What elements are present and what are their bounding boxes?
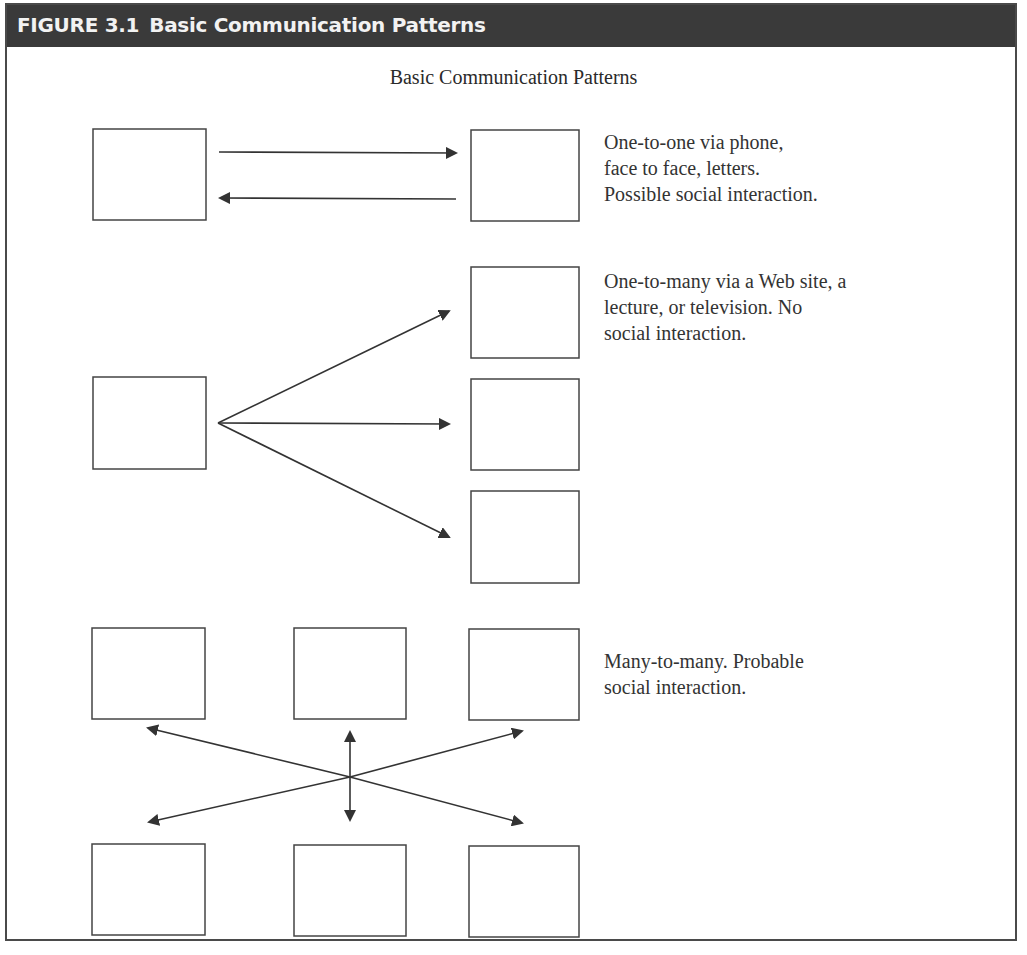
arrow-down-right bbox=[350, 777, 522, 823]
description-line: Possible social interaction. bbox=[604, 181, 984, 207]
arrow-right bbox=[219, 152, 456, 153]
description-line: social interaction. bbox=[604, 674, 984, 700]
node-box bbox=[471, 267, 579, 358]
node-box bbox=[294, 845, 406, 936]
node-box bbox=[471, 130, 579, 221]
description-line: Many-to-many. Probable bbox=[604, 648, 984, 674]
node-box bbox=[471, 491, 579, 583]
node-box bbox=[469, 846, 579, 937]
arrow-up-right bbox=[218, 311, 449, 423]
arrow-up-left bbox=[148, 728, 350, 777]
description-line: lecture, or television. No bbox=[604, 294, 984, 320]
node-box bbox=[93, 377, 206, 469]
node-box bbox=[92, 628, 205, 719]
arrow-left bbox=[220, 198, 456, 199]
arrow-down-left bbox=[149, 777, 350, 822]
arrow-down-right bbox=[218, 423, 449, 537]
description-line: social interaction. bbox=[604, 320, 984, 346]
one-to-one-description: One-to-one via phone, face to face, lett… bbox=[604, 129, 984, 207]
node-box bbox=[93, 129, 206, 220]
node-box bbox=[469, 629, 579, 720]
node-box bbox=[294, 628, 406, 719]
node-box bbox=[92, 844, 205, 935]
description-line: One-to-many via a Web site, a bbox=[604, 268, 984, 294]
arrow-up-right bbox=[350, 731, 522, 777]
many-to-many-description: Many-to-many. Probable social interactio… bbox=[604, 648, 984, 700]
description-line: One-to-one via phone, bbox=[604, 129, 984, 155]
description-line: face to face, letters. bbox=[604, 155, 984, 181]
node-box bbox=[471, 379, 579, 470]
arrow-right bbox=[218, 423, 449, 424]
one-to-many-description: One-to-many via a Web site, a lecture, o… bbox=[604, 268, 984, 346]
